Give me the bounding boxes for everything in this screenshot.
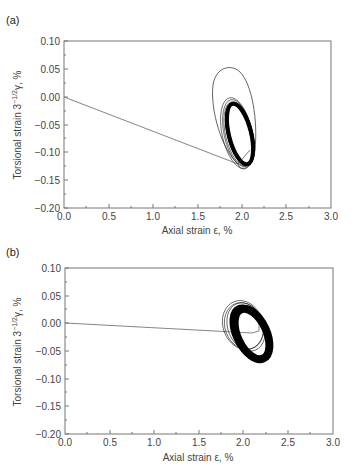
x-tick-label: 3.0 xyxy=(324,211,338,222)
y-tick-label: 0.00 xyxy=(42,318,62,329)
y-axis-a xyxy=(64,41,68,208)
stabilised-loops-b xyxy=(227,303,276,364)
x-axis-label-b: Axial strain ε, % xyxy=(163,452,234,463)
y-axis-b xyxy=(65,268,69,434)
y-tick-label: −0.10 xyxy=(35,147,61,158)
y-tick-label: 0.10 xyxy=(41,36,61,47)
chart-b-svg: (b) Torsional strain 3−1/2γ, % 0.10 0.05… xyxy=(0,237,356,475)
y-tick-label: −0.05 xyxy=(36,346,62,357)
y-axis-label-a: Torsional strain 3−1/2γ, % xyxy=(11,70,23,179)
plot-frame-b xyxy=(65,268,333,434)
x-axis-label-a: Axial strain ε, % xyxy=(162,225,233,236)
y-tick-label: 0.10 xyxy=(42,263,62,274)
panel-label-b: (b) xyxy=(6,246,19,258)
x-tick-label: 1.5 xyxy=(192,437,206,448)
x-tick-label: 1.0 xyxy=(147,437,161,448)
data-traces-a xyxy=(64,68,260,172)
y-tick-label: 0.05 xyxy=(41,64,61,75)
x-tick-label: 2.5 xyxy=(281,437,295,448)
x-axis-a xyxy=(86,204,309,208)
plot-frame-a xyxy=(64,41,331,208)
x-tick-label: 2.0 xyxy=(236,437,250,448)
y-axis-label-b: Torsional strain 3−1/2γ, % xyxy=(11,297,23,406)
chart-a-svg: (a) Torsional strain 3−1/2γ, % 0.10 0.05… xyxy=(0,0,356,237)
chart-panel-a: (a) Torsional strain 3−1/2γ, % 0.10 0.05… xyxy=(0,0,356,237)
x-tick-label: 1.5 xyxy=(191,211,205,222)
x-tick-label: 2.0 xyxy=(235,211,249,222)
x-tick-label: 0.5 xyxy=(103,437,117,448)
data-traces-b xyxy=(65,295,277,365)
x-tick-label: 1.0 xyxy=(146,211,160,222)
x-tick-label: 0.5 xyxy=(102,211,116,222)
y-tick-label: 0.05 xyxy=(42,291,62,302)
y-tick-label: −0.05 xyxy=(35,120,61,131)
panel-label-a: (a) xyxy=(6,14,19,26)
x-tick-label: 0.0 xyxy=(57,211,71,222)
x-tick-label: 3.0 xyxy=(326,437,340,448)
x-tick-label: 2.5 xyxy=(279,211,293,222)
x-tick-label: 0.0 xyxy=(58,437,72,448)
y-tick-label: −0.10 xyxy=(36,374,62,385)
y-tick-label: −0.15 xyxy=(36,401,62,412)
chart-panel-b: (b) Torsional strain 3−1/2γ, % 0.10 0.05… xyxy=(0,237,356,475)
y-tick-label: 0.00 xyxy=(41,92,61,103)
x-axis-b xyxy=(87,430,310,434)
loading-path-a xyxy=(64,97,238,164)
y-tick-label: −0.15 xyxy=(35,175,61,186)
